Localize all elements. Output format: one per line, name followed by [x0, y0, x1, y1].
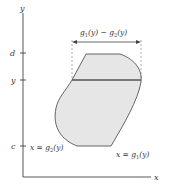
arrowhead-right-icon	[136, 40, 141, 44]
x-axis-label: x	[154, 173, 159, 182]
region-diagram: y x d y c g1(y) − g2(y) x = g2(y) x = g1…	[0, 0, 170, 192]
left-curve-label: x = g2(y)	[30, 143, 63, 153]
tick-label-c: c	[11, 142, 16, 151]
arrowhead-left-icon	[72, 40, 77, 44]
width-label: g1(y) − g2(y)	[80, 28, 127, 38]
right-curve-label: x = g1(y)	[116, 150, 149, 160]
y-axis-label: y	[19, 4, 25, 13]
tick-label-d: d	[10, 49, 15, 58]
shaded-region	[55, 54, 141, 146]
tick-label-y: y	[10, 76, 16, 85]
